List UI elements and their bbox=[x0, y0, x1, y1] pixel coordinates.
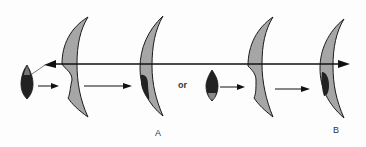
label-b: B bbox=[333, 125, 339, 135]
arrowhead-right-icon bbox=[338, 60, 350, 68]
small-arrowhead-1-icon bbox=[51, 83, 59, 89]
diagram-svg bbox=[0, 0, 366, 147]
label-a: A bbox=[155, 128, 161, 138]
crescent-shape-1 bbox=[62, 17, 88, 117]
pointer-line bbox=[32, 65, 45, 74]
small-arrowhead-2-icon bbox=[123, 83, 132, 89]
crescent-shape-2 bbox=[140, 16, 163, 116]
diagram-canvas: or A B bbox=[0, 0, 366, 147]
small-arrowhead-4-icon bbox=[301, 86, 310, 92]
arrowhead-left-icon bbox=[44, 60, 56, 68]
small-arrowhead-3-icon bbox=[237, 84, 245, 90]
lens-object-middle-highlight bbox=[208, 93, 216, 100]
or-label: or bbox=[178, 80, 187, 90]
crescent-shape-4 bbox=[320, 19, 344, 118]
crescent-shape-3 bbox=[248, 17, 273, 117]
